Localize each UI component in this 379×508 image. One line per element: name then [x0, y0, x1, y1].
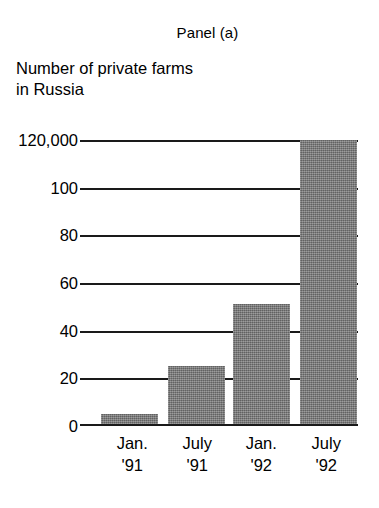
- y-tick-label-80: 80: [60, 227, 78, 244]
- chart-subtitle: Number of private farms in Russia: [16, 58, 316, 100]
- x-axis-tick-labels: Jan. '91July '91Jan. '92July '92: [100, 432, 358, 492]
- y-tick-label-100: 100: [50, 179, 78, 196]
- y-axis-tick: [80, 140, 100, 142]
- x-axis-tick: [80, 424, 100, 426]
- y-axis-tick: [80, 235, 100, 237]
- bar-July91: [168, 366, 225, 426]
- y-tick-label-20: 20: [60, 370, 78, 387]
- chart-figure: Panel (a) Number of private farms in Rus…: [0, 0, 379, 508]
- y-axis-tick: [80, 331, 100, 333]
- x-tick-label-2: Jan. '92: [229, 432, 294, 476]
- x-tick-label-3: July '92: [294, 432, 359, 476]
- x-tick-label-0: Jan. '91: [100, 432, 165, 476]
- bar-July92: [300, 140, 357, 426]
- plot-area: [100, 140, 358, 426]
- y-axis-tick: [80, 188, 100, 190]
- bar-series: [100, 140, 358, 426]
- y-axis-tick: [80, 283, 100, 285]
- x-axis-line: [100, 424, 358, 426]
- y-tick-label-120000: 120,000: [18, 132, 78, 149]
- bar-Jan92: [233, 304, 290, 426]
- y-axis-tick-labels: 020406080100120,000: [0, 140, 78, 426]
- y-tick-label-0: 0: [69, 418, 78, 435]
- y-axis-tick: [80, 378, 100, 380]
- panel-title: Panel (a): [0, 24, 379, 41]
- y-tick-label-40: 40: [60, 322, 78, 339]
- y-tick-label-60: 60: [60, 275, 78, 292]
- x-tick-label-1: July '91: [165, 432, 230, 476]
